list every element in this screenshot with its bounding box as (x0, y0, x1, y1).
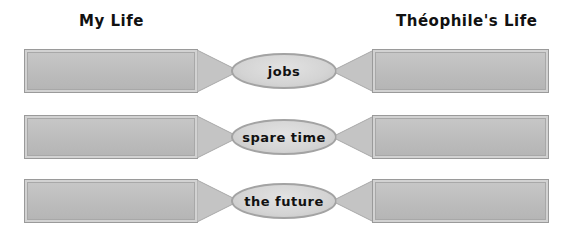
topic-oval-jobs: jobs (231, 53, 337, 89)
my-life-future-box[interactable] (24, 179, 198, 223)
right-connector-wedge (336, 115, 374, 159)
topic-label: the future (244, 194, 323, 209)
left-connector-wedge (197, 49, 235, 93)
my-life-spare-time-box[interactable] (24, 115, 198, 159)
my-life-future-input[interactable] (29, 184, 193, 218)
theophile-life-heading: Théophile's Life (396, 12, 537, 30)
left-connector-wedge (197, 179, 235, 223)
my-life-jobs-box[interactable] (24, 49, 198, 93)
topic-label: spare time (242, 130, 326, 145)
topic-oval-spare-time: spare time (231, 119, 337, 155)
topic-label: jobs (268, 64, 300, 79)
right-connector-wedge (336, 179, 374, 223)
theophile-jobs-input[interactable] (377, 54, 544, 88)
comparison-row-spare-time: spare time (0, 115, 572, 161)
theophile-future-input[interactable] (377, 184, 544, 218)
theophile-future-box[interactable] (372, 179, 549, 223)
comparison-row-jobs: jobs (0, 49, 572, 95)
my-life-jobs-input[interactable] (29, 54, 193, 88)
theophile-spare-time-input[interactable] (377, 120, 544, 154)
my-life-spare-time-input[interactable] (29, 120, 193, 154)
my-life-heading: My Life (79, 12, 144, 30)
topic-oval-the-future: the future (231, 183, 337, 219)
theophile-spare-time-box[interactable] (372, 115, 549, 159)
comparison-row-the-future: the future (0, 179, 572, 225)
right-connector-wedge (336, 49, 374, 93)
left-connector-wedge (197, 115, 235, 159)
theophile-jobs-box[interactable] (372, 49, 549, 93)
